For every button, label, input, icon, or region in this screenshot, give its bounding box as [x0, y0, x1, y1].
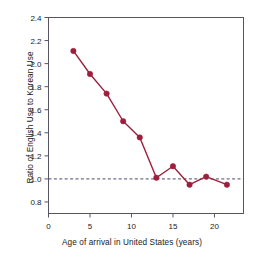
- data-point-marker: [224, 182, 229, 187]
- data-point-marker: [203, 174, 208, 179]
- data-point-marker: [71, 48, 76, 53]
- data-point-marker: [104, 91, 109, 96]
- plot-frame: [49, 18, 244, 214]
- x-tick-label: 5: [88, 222, 93, 231]
- data-point-marker: [137, 135, 142, 140]
- x-tick-label: 15: [169, 222, 178, 231]
- data-point-marker: [154, 175, 159, 180]
- data-point-marker: [170, 164, 175, 169]
- x-tick-label: 20: [210, 222, 219, 231]
- data-point-marker: [187, 182, 192, 187]
- y-axis-title: Ratio of English Use to Korean Use: [26, 18, 35, 218]
- data-point-marker: [87, 71, 92, 76]
- line-chart-plot: 0.81.01.21.41.61.82.02.22.4 05101520: [0, 0, 264, 262]
- x-axis-ticks: 05101520: [46, 214, 219, 231]
- x-axis-title: Age of arrival in United States (years): [0, 238, 264, 247]
- x-tick-label: 10: [127, 222, 136, 231]
- data-point-marker: [120, 119, 125, 124]
- x-tick-label: 0: [46, 222, 51, 231]
- chart-container: 0.81.01.21.41.61.82.02.22.4 05101520 Age…: [0, 0, 264, 262]
